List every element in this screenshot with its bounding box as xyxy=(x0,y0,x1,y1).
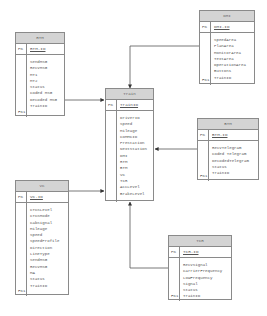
entity-btm[interactable]: BTM PKBTM.ID FK1 RecvTelegram Coded Tele… xyxy=(197,118,259,180)
fk-label: FK1 xyxy=(18,288,25,294)
pk-label: PK xyxy=(198,130,209,140)
pk-label: PK xyxy=(106,100,117,110)
fk-label: FK1 xyxy=(200,173,207,179)
entity-title: RTM xyxy=(16,33,64,44)
field: CarrierFrequency xyxy=(183,268,222,274)
primary-key: DMI.ID xyxy=(211,22,229,32)
entity-title: BTM xyxy=(198,119,258,130)
pk-label: PK xyxy=(16,44,27,54)
primary-key: TrainID xyxy=(117,100,138,110)
entity-vc[interactable]: VC PKVC.ID FK1 CTCSLevel CTCSMode CabSig… xyxy=(15,180,69,295)
fk-label: FK1 xyxy=(171,293,178,299)
pk-label: PK xyxy=(16,192,27,202)
entity-dmi[interactable]: DMI PKDMI.ID FK1 SpeedArea PlanArea Moni… xyxy=(199,10,255,84)
primary-key: VC.ID xyxy=(27,192,43,202)
entity-rtm[interactable]: RTM PKRTM.ID FK1 SendMSG RecvMSG MT1 MT2… xyxy=(15,32,65,116)
field: SpeedProfile xyxy=(30,238,59,244)
field: Coded Telegram xyxy=(212,151,249,157)
tcr-train-link xyxy=(130,202,168,268)
field: NextStation xyxy=(120,146,147,152)
entity-title: DMI xyxy=(200,11,254,22)
entity-tcr[interactable]: TCR PKTCR.ID FK1 RecvSignal CarrierFrequ… xyxy=(168,235,232,300)
primary-key: TCR.ID xyxy=(180,247,198,257)
entity-title: Train xyxy=(106,89,153,100)
primary-key: BTM.ID xyxy=(209,130,227,140)
entity-title: TCR xyxy=(169,236,231,247)
field: TrainID xyxy=(183,293,222,299)
primary-key: RTM.ID xyxy=(27,44,45,54)
field: DecodedTelegram xyxy=(212,158,249,164)
entity-train[interactable]: Train PKTrainID DriverID Speed Mileage C… xyxy=(105,88,154,201)
dmi-train-link xyxy=(130,46,199,88)
entity-title: VC xyxy=(16,181,68,192)
field: BrakeLevel xyxy=(120,191,147,197)
field: TrainID xyxy=(30,103,57,109)
fk-label: FK1 xyxy=(202,77,209,83)
field: TrainID xyxy=(30,283,59,289)
pk-label: PK xyxy=(169,247,180,257)
fk-label: FK1 xyxy=(18,109,25,115)
pk-label: PK xyxy=(200,22,211,32)
field: TrainID xyxy=(212,170,249,176)
field: TrainID xyxy=(214,75,246,81)
